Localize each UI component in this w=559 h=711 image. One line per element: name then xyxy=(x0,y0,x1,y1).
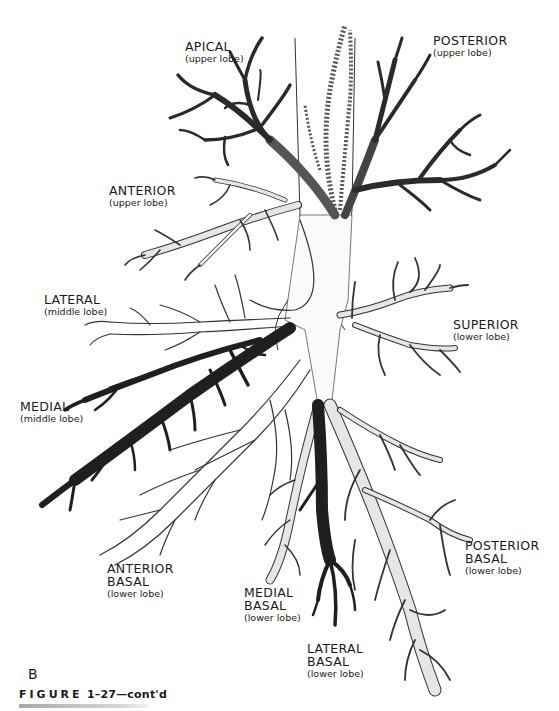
label-anterior-lobe: (upper lobe) xyxy=(109,198,176,208)
label-medial-middle-lobe: (middle lobe) xyxy=(20,414,83,424)
label-posterior-basal-title2: BASAL xyxy=(465,552,539,565)
label-posterior-lobe: (upper lobe) xyxy=(433,48,507,58)
label-posterior-basal-lobe: (lower lobe) xyxy=(465,566,539,576)
label-lateral-middle-title: LATERAL xyxy=(44,293,107,306)
label-medial-basal: MEDIAL BASAL (lower lobe) xyxy=(244,586,301,623)
label-lateral-basal-lobe: (lower lobe) xyxy=(307,669,364,679)
figure-caption: FIGURE 1–27—cont'd xyxy=(19,688,167,701)
label-lateral-basal-title2: BASAL xyxy=(307,655,364,668)
panel-letter: B xyxy=(28,666,38,682)
label-medial-middle-title: MEDIAL xyxy=(20,400,83,413)
label-apical-title: APICAL xyxy=(185,40,244,53)
label-superior-lobe: (lower lobe) xyxy=(453,332,519,342)
label-lateral-basal: LATERAL BASAL (lower lobe) xyxy=(307,642,364,679)
segment-posterior xyxy=(345,38,510,215)
label-posterior: POSTERIOR (upper lobe) xyxy=(433,34,507,58)
label-apical-lobe: (upper lobe) xyxy=(185,54,244,64)
figure-caption-prefix: FIGURE xyxy=(19,688,83,701)
label-medial-basal-title2: BASAL xyxy=(244,599,301,612)
label-posterior-basal: POSTERIOR BASAL (lower lobe) xyxy=(465,539,539,576)
label-lateral-middle-lobe: (middle lobe) xyxy=(44,307,107,317)
label-medial-basal-lobe: (lower lobe) xyxy=(244,613,301,623)
label-medial-middle: MEDIAL (middle lobe) xyxy=(20,400,83,424)
label-lateral-middle: LATERAL (middle lobe) xyxy=(44,293,107,317)
label-superior: SUPERIOR (lower lobe) xyxy=(453,318,519,342)
label-anterior-basal-title2: BASAL xyxy=(107,575,174,588)
label-posterior-title: POSTERIOR xyxy=(433,34,507,47)
label-anterior-title: ANTERIOR xyxy=(109,184,176,197)
caption-underline-bar xyxy=(19,704,149,708)
label-superior-title: SUPERIOR xyxy=(453,318,519,331)
label-anterior: ANTERIOR (upper lobe) xyxy=(109,184,176,208)
label-apical: APICAL (upper lobe) xyxy=(185,40,244,64)
label-anterior-basal: ANTERIOR BASAL (lower lobe) xyxy=(107,562,174,599)
segment-superior xyxy=(340,258,468,375)
label-anterior-basal-lobe: (lower lobe) xyxy=(107,589,174,599)
figure-caption-number: 1–27—cont'd xyxy=(87,688,167,701)
